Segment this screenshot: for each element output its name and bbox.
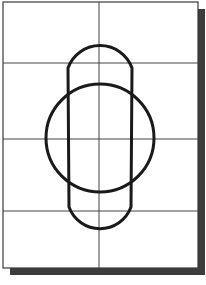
drawing-canvas xyxy=(0,0,206,285)
drawing-sheet xyxy=(0,0,206,285)
sheet-shadow-right xyxy=(198,9,205,275)
sheet-shadow-bottom xyxy=(10,268,205,275)
